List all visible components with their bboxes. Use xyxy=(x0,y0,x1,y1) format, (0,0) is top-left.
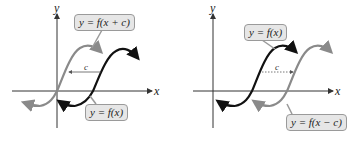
right-shift-label: c xyxy=(275,63,279,72)
left-label-original: y = f(x) xyxy=(85,104,128,121)
right-label-shifted: y = f(x − c) xyxy=(286,114,347,131)
right-curve-original xyxy=(235,46,295,106)
right-curve-shifted xyxy=(270,46,330,106)
left-shift-label: c xyxy=(84,63,88,72)
left-y-axis-label: y xyxy=(54,2,59,14)
left-label-shifted: y = f(x + c) xyxy=(74,14,135,31)
right-y-axis-label: y xyxy=(210,2,215,14)
right-label-original: y = f(x) xyxy=(244,24,287,41)
right-x-axis-label: x xyxy=(335,85,340,97)
left-curve-original xyxy=(75,49,137,106)
left-panel xyxy=(12,14,152,128)
left-x-axis-label: x xyxy=(154,85,159,97)
